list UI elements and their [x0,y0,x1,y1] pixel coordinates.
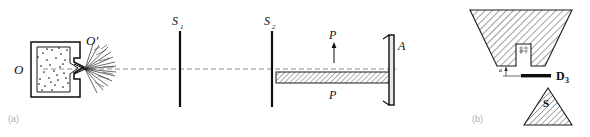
figure-svg: O O' S 1 S 2 P P A (a) b [0,0,590,137]
figure-container: O O' S 1 S 2 P P A (a) b [0,0,590,137]
label-plate-p-bottom: P [328,88,337,102]
label-slit-d3-subscript: 3 [565,76,569,85]
label-nozzle-o-prime: O' [86,33,98,48]
label-slit-s2-subscript: 2 [272,23,276,31]
caption-panel-a: (a) [8,114,19,124]
deflecting-plate-p [276,72,390,83]
label-plate-p-top: P [328,28,337,42]
label-south-pole-s: S [543,97,549,109]
label-slit-s2: S [264,14,270,28]
label-slit-d3: D [556,69,565,83]
label-detector-a: A [397,39,406,53]
label-gap-mark-a: a [499,67,502,73]
label-slit-s1: S [172,14,178,28]
label-notch-mark-b: b [520,48,523,54]
detector-plate-a [389,35,394,105]
slit-bar-d3 [521,74,551,77]
label-slit-s1-subscript: 1 [180,23,184,31]
label-oven-o: O [14,62,24,77]
caption-panel-b: (b) [472,114,483,124]
